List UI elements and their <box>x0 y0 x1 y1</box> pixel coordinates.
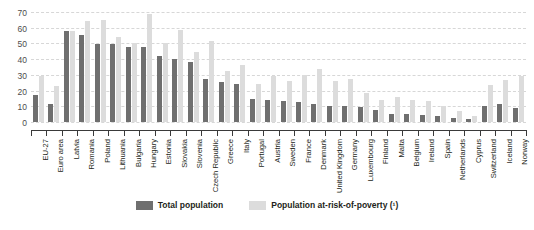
bar-group <box>31 12 46 130</box>
bar[interactable] <box>404 114 409 122</box>
bar[interactable] <box>110 44 115 122</box>
bar-group <box>62 12 77 130</box>
bar[interactable] <box>441 106 446 122</box>
bar[interactable] <box>132 43 137 122</box>
x-axis-label-belgium: Belgium <box>413 139 421 166</box>
x-axis-label-netherlands: Netherlands <box>459 139 467 180</box>
bar[interactable] <box>85 21 90 122</box>
bar[interactable] <box>358 107 363 122</box>
bar-group <box>248 12 263 130</box>
bar[interactable] <box>126 47 131 122</box>
bar[interactable] <box>157 56 162 122</box>
bar[interactable] <box>420 115 425 122</box>
bar[interactable] <box>256 84 261 122</box>
x-axis-tick-end <box>526 130 527 136</box>
y-tick-label-20: 20 <box>18 87 27 96</box>
bar[interactable] <box>95 44 100 122</box>
x-axis-tick <box>449 130 450 136</box>
bar[interactable] <box>519 76 524 122</box>
x-axis-label-france: France <box>305 139 313 163</box>
bar[interactable] <box>364 93 369 122</box>
bar-group <box>46 12 61 130</box>
bar[interactable] <box>513 108 518 122</box>
bar[interactable] <box>327 106 332 123</box>
bar[interactable] <box>64 31 69 122</box>
legend-swatch-total-population <box>136 201 153 210</box>
bar-group <box>201 12 216 130</box>
bar[interactable] <box>209 41 214 122</box>
bar[interactable] <box>54 86 59 122</box>
x-axis-tick <box>155 130 156 136</box>
bar[interactable] <box>503 80 508 122</box>
bar[interactable] <box>219 82 224 122</box>
y-tick-label-40: 40 <box>18 56 27 65</box>
y-tick-label-50: 50 <box>18 40 27 49</box>
bar-group <box>340 12 355 130</box>
x-axis-tick <box>139 130 140 136</box>
bar[interactable] <box>265 100 270 122</box>
bar[interactable] <box>379 100 384 122</box>
bar-group <box>124 12 139 130</box>
x-axis-tick <box>46 130 47 136</box>
bar[interactable] <box>410 100 415 122</box>
bar[interactable] <box>271 76 276 122</box>
bar[interactable] <box>39 76 44 122</box>
bar-group <box>433 12 448 130</box>
bar[interactable] <box>163 43 168 122</box>
x-axis-label-denmark: Denmark <box>320 139 328 170</box>
bar[interactable] <box>302 75 307 122</box>
bar[interactable] <box>482 106 487 122</box>
bar[interactable] <box>70 31 75 122</box>
bar-group <box>356 12 371 130</box>
bar[interactable] <box>311 104 316 122</box>
x-axis-label-ireland: Ireland <box>428 139 436 162</box>
bar[interactable] <box>250 99 255 122</box>
bar[interactable] <box>333 81 338 122</box>
bar[interactable] <box>234 84 239 122</box>
x-axis-category-labels: EU-27Euro areaLatviaRomaniaPolandLithuan… <box>31 139 526 189</box>
bar[interactable] <box>426 101 431 122</box>
bar[interactable] <box>188 62 193 123</box>
bar[interactable] <box>194 52 199 122</box>
x-axis-tick <box>170 130 171 136</box>
bar[interactable] <box>33 95 38 123</box>
bar[interactable] <box>48 104 53 122</box>
bars-layer <box>31 12 526 130</box>
x-axis-label-spain: Spain <box>444 139 452 158</box>
bar[interactable] <box>101 20 106 122</box>
bar-group <box>511 12 526 130</box>
bar[interactable] <box>317 69 322 122</box>
x-axis-tick <box>232 130 233 136</box>
bar[interactable] <box>342 106 347 122</box>
bar[interactable] <box>457 111 462 122</box>
bar[interactable] <box>389 114 394 122</box>
bar[interactable] <box>178 30 183 122</box>
bar[interactable] <box>373 110 378 122</box>
bar[interactable] <box>116 37 121 122</box>
chart-figure: 010203040506070 EU-27Euro areaLatviaRoma… <box>0 0 534 230</box>
bar[interactable] <box>172 59 177 122</box>
bar[interactable] <box>287 81 292 122</box>
bar[interactable] <box>472 116 477 122</box>
bar[interactable] <box>488 85 493 122</box>
bar[interactable] <box>296 102 301 122</box>
bar[interactable] <box>147 14 152 122</box>
x-axis-label-greece: Greece <box>227 139 235 164</box>
bar[interactable] <box>141 47 146 122</box>
bar[interactable] <box>395 97 400 122</box>
bar[interactable] <box>281 101 286 122</box>
bar[interactable] <box>466 119 471 122</box>
x-axis-ticks <box>31 130 526 137</box>
legend-item-total-population[interactable]: Total population <box>136 200 223 210</box>
bar[interactable] <box>348 79 353 122</box>
bar[interactable] <box>240 65 245 122</box>
bar[interactable] <box>451 118 456 122</box>
bar[interactable] <box>79 35 84 122</box>
bar[interactable] <box>225 71 230 122</box>
bar[interactable] <box>497 104 502 122</box>
bar[interactable] <box>435 116 440 122</box>
x-axis-tick <box>340 130 341 136</box>
legend-item-population-at-risk-of-poverty[interactable]: Population at-risk-of-poverty (¹) <box>249 200 398 210</box>
bar[interactable] <box>203 79 208 122</box>
legend-label-population-at-risk-of-poverty: Population at-risk-of-poverty (¹) <box>271 200 398 210</box>
